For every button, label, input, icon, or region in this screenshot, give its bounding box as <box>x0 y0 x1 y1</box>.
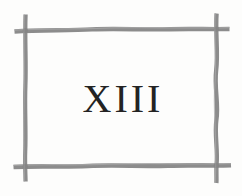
chapter-number-text: XIII <box>83 79 164 119</box>
chapter-number: XIII <box>0 0 242 196</box>
decorative-chapter-heading-page: XIII <box>0 0 242 196</box>
